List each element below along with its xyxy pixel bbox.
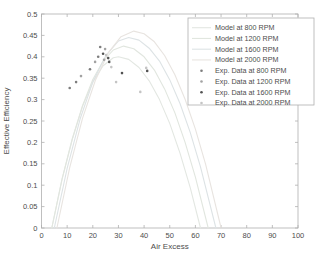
x-tick-label: 40 [140,231,148,240]
exp-data-point [105,54,108,57]
exp-data-point [75,81,78,84]
exp-data-point [139,91,142,94]
exp-data-point [102,53,105,56]
y-axis-label: Effective Efficiency [2,88,11,155]
x-tick-label: 80 [243,231,251,240]
exp-data-point [103,59,106,62]
x-tick-label: 30 [114,231,122,240]
y-tick-label: 0.1 [27,181,37,190]
legend-marker-swatch [200,91,203,94]
y-tick-label: 0 [33,224,37,233]
legend-entry-label: Model at 800 RPM [215,23,275,32]
legend-marker-swatch [200,80,203,83]
exp-data-point [146,70,149,73]
x-tick-label: 90 [268,231,276,240]
legend-entry-label: Model at 1200 RPM [215,34,279,43]
legend-entry-label: Exp. Data at 1200 RPM [215,77,291,86]
efficiency-chart: 010203040506070809010000.050.10.150.20.2… [0,0,317,262]
y-tick-label: 0.25 [23,117,38,126]
legend-entry-label: Exp. Data at 2000 RPM [215,98,291,107]
exp-data-point [94,61,97,64]
legend-marker-swatch [200,102,203,105]
x-tick-label: 0 [39,231,43,240]
matlab-figure: 010203040506070809010000.050.10.150.20.2… [0,0,317,262]
exp-data-point [145,67,148,70]
x-tick-label: 70 [217,231,225,240]
legend-entry-label: Model at 1600 RPM [215,45,279,54]
legend-entry-label: Model at 2000 RPM [215,55,279,64]
x-tick-label: 100 [292,231,305,240]
exp-data-point [99,46,102,49]
exp-data-point [115,81,118,84]
y-tick-label: 0.15 [23,159,38,168]
exp-data-point [97,56,100,59]
y-tick-label: 0.05 [23,202,38,211]
exp-data-point [108,61,111,64]
y-tick-label: 0.35 [23,74,38,83]
legend-entry-label: Exp. Data at 1600 RPM [215,88,291,97]
exp-data-point [89,68,92,71]
x-tick-label: 50 [166,231,174,240]
legend-marker-swatch [200,69,203,72]
x-axis-label: Air Excess [151,242,189,251]
exp-data-point [68,87,71,90]
x-tick-label: 20 [89,231,97,240]
y-tick-label: 0.2 [27,138,37,147]
exp-data-point [107,57,110,60]
y-tick-label: 0.4 [27,52,37,61]
y-tick-label: 0.3 [27,95,37,104]
exp-data-point [121,72,124,75]
y-tick-label: 0.45 [23,31,38,40]
legend-entry-label: Exp. Data at 800 RPM [215,66,287,75]
x-tick-label: 10 [63,231,71,240]
y-tick-label: 0.5 [27,10,37,19]
exp-data-point [110,66,113,69]
exp-data-point [80,75,83,78]
x-tick-label: 60 [191,231,199,240]
exp-data-point [104,48,107,51]
